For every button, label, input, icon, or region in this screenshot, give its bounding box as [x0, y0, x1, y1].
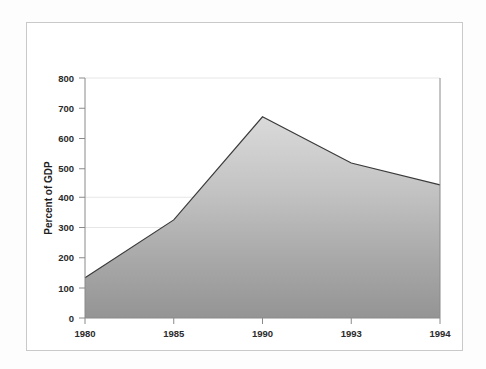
y-tick-marks	[79, 78, 85, 318]
x-tick-labels: 1980 1985 1990 1993 1994	[74, 328, 451, 339]
y-tick-label: 800	[58, 73, 74, 84]
x-tick-label: 1985	[163, 328, 185, 339]
x-tick-label: 1994	[429, 328, 451, 339]
series-area-percent-of-gdp	[85, 117, 440, 318]
y-tick-label: 200	[58, 252, 74, 263]
y-tick-labels: 800 700 600 500 400 300 200 100 0	[58, 73, 74, 324]
figure-canvas: 800 700 600 500 400 300 200 100 0 1980 1…	[0, 0, 486, 369]
x-tick-label: 1990	[252, 328, 273, 339]
y-tick-label: 400	[58, 192, 74, 203]
y-tick-label: 600	[58, 133, 74, 144]
y-tick-label: 700	[58, 103, 74, 114]
y-tick-label: 300	[58, 222, 74, 233]
y-axis-title: Percent of GDP	[43, 161, 54, 235]
y-tick-label: 0	[69, 313, 74, 324]
x-tick-label: 1993	[341, 328, 362, 339]
area-fill	[85, 117, 440, 318]
y-tick-label: 100	[58, 283, 74, 294]
area-chart: 800 700 600 500 400 300 200 100 0 1980 1…	[0, 0, 486, 369]
x-tick-marks	[85, 318, 440, 324]
x-tick-label: 1980	[74, 328, 95, 339]
y-tick-label: 500	[58, 163, 74, 174]
